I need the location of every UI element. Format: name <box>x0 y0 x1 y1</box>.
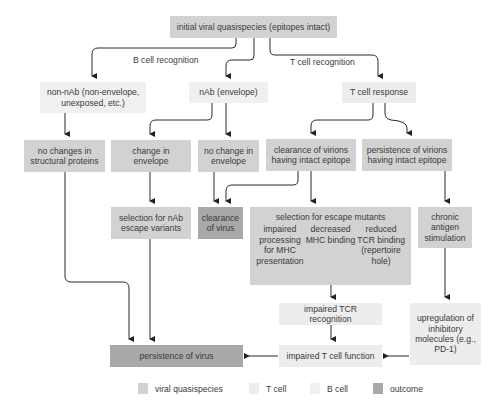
node-label: impaired TCR recognition <box>282 304 379 325</box>
legend-label: outcome <box>390 384 423 394</box>
node-nab-envelope: nAb (envelope) <box>189 82 268 103</box>
node-label: change in envelope <box>114 146 188 167</box>
node-label: chronic antigen stimulation <box>421 212 469 243</box>
node-label: impaired T cell function <box>286 351 374 361</box>
node-impaired-tcr-recognition: impaired TCR recognition <box>279 303 382 325</box>
node-label: persistence of virus <box>139 351 213 361</box>
node-impaired-t-cell-function: impaired T cell function <box>279 345 382 367</box>
node-label: selection for nAb escape variants <box>114 213 188 234</box>
node-persistence-of-virus: persistence of virus <box>110 345 243 367</box>
node-selection-escape-mutants: selection for escape mutants impaired pr… <box>250 207 411 285</box>
legend-label: B cell <box>327 384 348 394</box>
escape-mutants-title: selection for escape mutants <box>276 212 385 222</box>
legend-item-b-cell: B cell <box>310 383 348 394</box>
node-label: non-nAb (non-envelope, unexposed, etc.) <box>43 87 143 108</box>
legend-label: viral quasispecies <box>155 384 223 394</box>
node-upregulation-inhibitory: upregulation of inhibitory molecules (e.… <box>410 303 481 365</box>
node-label: nAb (envelope) <box>199 87 257 97</box>
node-persistence-of-virions: persistence of virions having intact epi… <box>362 139 452 171</box>
node-label: no changes in structural proteins <box>27 146 102 167</box>
node-t-cell-response: T cell response <box>342 82 416 103</box>
legend-swatch-b-cell <box>310 383 320 394</box>
node-clearance-of-virions: clearance of virions having intact epito… <box>266 139 356 171</box>
node-no-change-in-envelope: no change in envelope <box>198 140 259 172</box>
node-no-changes-structural-proteins: no changes in structural proteins <box>24 140 105 172</box>
node-label: no change in envelope <box>201 146 256 167</box>
legend-item-viral: viral quasispecies <box>138 383 223 394</box>
node-label: persistence of virions having intact epi… <box>365 145 449 166</box>
legend-item-outcome: outcome <box>373 383 423 394</box>
node-clearance-of-virus: clearance of virus <box>198 207 243 239</box>
edge-label-t-cell-recognition: T cell recognition <box>290 57 355 67</box>
node-non-nab: non-nAb (non-envelope, unexposed, etc.) <box>40 82 146 113</box>
node-chronic-antigen-stimulation: chronic antigen stimulation <box>418 207 472 248</box>
node-change-in-envelope: change in envelope <box>111 140 191 172</box>
legend-item-t-cell: T cell <box>249 383 286 394</box>
node-label: clearance of virions having intact epito… <box>269 145 353 166</box>
node-initial-viral-quasispecies: initial viral quasispecies (epitopes int… <box>170 16 337 38</box>
legend-swatch-t-cell <box>249 383 259 394</box>
legend-swatch-viral <box>138 383 148 394</box>
mechanism-impaired-processing: impaired processing for MHC presentation <box>255 224 305 266</box>
mechanism-decreased-mhc-binding: decreased MHC binding <box>306 224 356 266</box>
node-selection-nab-escape: selection for nAb escape variants <box>111 207 191 239</box>
edge-label-b-cell-recognition: B cell recognition <box>133 55 198 65</box>
escape-mutants-mechanisms: impaired processing for MHC presentation… <box>253 224 408 266</box>
legend: viral quasispecies T cell B cell outcome <box>0 383 502 399</box>
mechanism-reduced-tcr-binding: reduced TCR binding (repertoire hole) <box>356 224 406 266</box>
node-label: clearance of virus <box>201 213 240 234</box>
node-label: initial viral quasispecies (epitopes int… <box>177 22 330 32</box>
node-label: upregulation of inhibitory molecules (e.… <box>413 313 478 355</box>
legend-label: T cell <box>266 384 286 394</box>
node-label: T cell response <box>350 87 408 97</box>
legend-swatch-outcome <box>373 383 383 394</box>
